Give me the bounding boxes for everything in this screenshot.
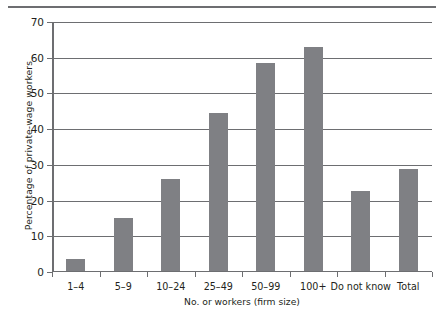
x-axis-tick-mark	[432, 272, 433, 277]
x-axis-tick-mark	[242, 272, 243, 277]
x-axis-tick-label: 10–24	[156, 281, 185, 292]
x-axis-tick-mark	[195, 272, 196, 277]
y-axis-tick-label: 50	[31, 87, 44, 99]
bar	[399, 169, 418, 271]
x-axis-tick-label: 25–49	[204, 281, 233, 292]
x-axis-tick-mark	[290, 272, 291, 277]
x-axis-tick-mark	[147, 272, 148, 277]
y-axis-tick-label: 0	[37, 266, 44, 278]
y-axis-tick-label: 20	[31, 195, 44, 207]
bar	[114, 218, 133, 271]
x-axis-tick-label: 100+	[300, 281, 326, 292]
figure-top-rule	[8, 6, 436, 8]
y-axis-tick-label: 30	[31, 159, 44, 171]
bar	[161, 179, 180, 271]
plot-area: 010203040506070 1–45–910–2425–4950–99100…	[52, 22, 432, 272]
bar	[304, 47, 323, 270]
bar	[351, 191, 370, 270]
y-axis-tick-label: 40	[31, 123, 44, 135]
x-axis-tick-label: Do not know	[331, 281, 391, 292]
chart-figure: Percentage of private-wage workers 01020…	[0, 0, 444, 322]
x-axis-tick-label: 1–4	[67, 281, 84, 292]
y-axis-tick-label: 70	[31, 16, 44, 28]
y-axis-tick-label: 60	[31, 52, 44, 64]
x-axis-tick-mark	[52, 272, 53, 277]
bar	[256, 63, 275, 270]
x-axis-tick-label: 5–9	[115, 281, 132, 292]
x-axis-tick-mark	[100, 272, 101, 277]
bar-series	[52, 22, 432, 272]
bar	[209, 113, 228, 270]
x-axis-tick-label: Total	[397, 281, 419, 292]
x-axis-label: No. or workers (firm size)	[52, 296, 432, 307]
y-axis-tick-label: 10	[31, 230, 44, 242]
x-axis-tick-label: 50–99	[251, 281, 280, 292]
bar	[66, 259, 85, 270]
x-axis-tick-mark	[337, 272, 338, 277]
x-axis-tick-mark	[385, 272, 386, 277]
